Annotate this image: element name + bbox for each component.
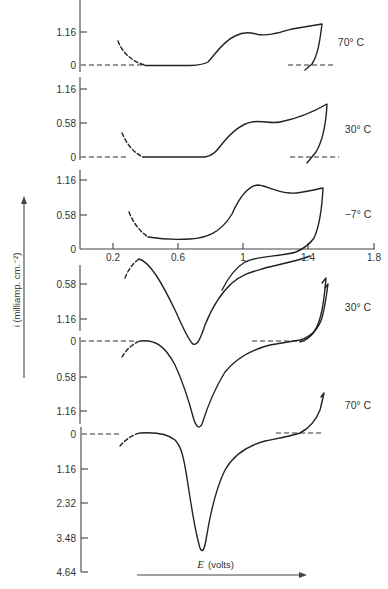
temperature-label: 30° C [345,301,372,313]
curve-70c-anodic [145,24,322,70]
x-tick-label: 1.8 [367,252,381,263]
x-tick-label: 1.4 [301,252,315,263]
panel-cathodic-30c: 0.58 1.16 30° C [57,256,372,344]
y-tick-label: 0 [70,244,76,255]
x-axis-title-group: E (volts) [137,558,307,578]
temperature-label: 70° C [338,36,365,48]
arrow-up-icon [21,196,27,204]
y-tick-label: 1.16 [57,464,77,475]
y-tick-label: 4.64 [57,567,77,578]
y-tick-label: 1.16 [57,314,77,325]
curve-minus7c [148,185,323,290]
curve-start-dashed [122,341,140,357]
temperature-label: −7° C [345,208,372,220]
y-tick-label: 0.58 [57,210,77,221]
y-axis-title: i (milliamp. cm.⁻²) [11,253,22,328]
y-tick-label: 1.16 [57,406,77,417]
y-tick-label: 0 [70,152,76,163]
y-tick-label: 0.58 [57,118,77,129]
x-axis-title-symbol: E [196,558,204,570]
curve-70c-cathodic [140,284,328,427]
panel-anodic-70c: 1.16 0 70° C [57,0,365,72]
curve-start-dashed [120,433,140,446]
y-axis-title-group: i (milliamp. cm.⁻²) [11,196,27,378]
y-tick-label: 1.16 [57,175,77,186]
curve-70c-cathodic-peak [140,393,324,551]
y-tick-label: 0 [70,336,76,347]
curve-start-dashed [118,41,145,65]
x-tick-label: 0.2 [106,252,120,263]
y-tick-label: 0 [70,429,76,440]
panel-minus7c: 1.16 0.58 0 0.2 0.6 1 1.4 1.8 −7° C [57,170,382,290]
curve-30c-anodic [143,104,327,163]
panel-cathodic-lower: 0 1.16 2.32 3.48 4.64 [57,393,324,578]
curve-30c-cathodic-upper [139,256,310,344]
curve-start-dashed [129,212,148,237]
temperature-label: 30° C [345,123,372,135]
cyclic-voltammogram-chart: 1.16 0 70° C 1.16 0.58 0 30° C 1.16 0.58… [0,0,388,589]
temperature-label: 70° C [345,399,372,411]
curve-start-dashed [125,259,139,278]
panel-anodic-30c: 1.16 0.58 0 30° C [57,77,372,163]
y-tick-label: 0.58 [57,372,77,383]
x-tick-label: 0.6 [171,252,185,263]
y-tick-label: 3.48 [57,533,77,544]
y-tick-label: 1.16 [57,27,77,38]
y-tick-label: 0 [70,60,76,71]
curve-start-dashed [122,133,143,157]
y-tick-label: 1.16 [57,84,77,95]
arrow-right-icon [299,572,307,578]
y-tick-label: 2.32 [57,498,77,509]
x-axis-title-unit: (volts) [208,559,234,570]
y-tick-label: 0.58 [57,279,77,290]
